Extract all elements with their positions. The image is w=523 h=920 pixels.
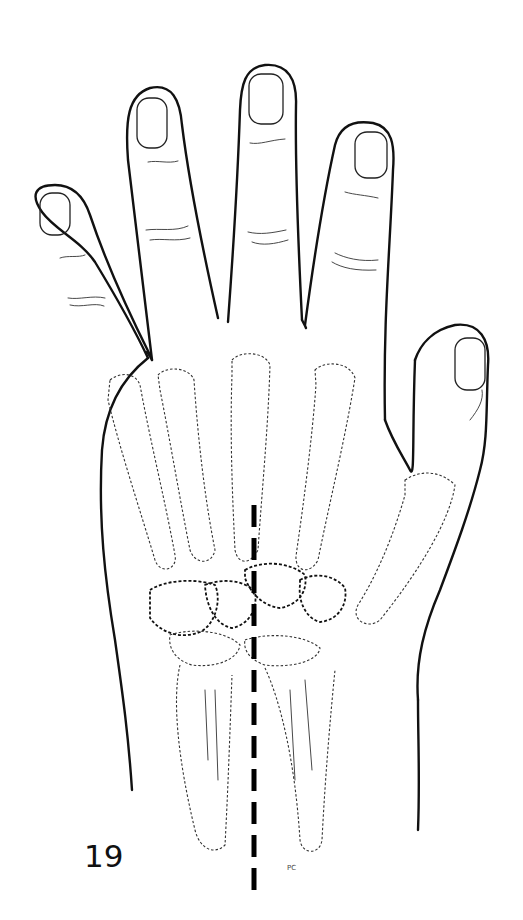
carpal-bones [150, 564, 346, 666]
artist-signature: PC [287, 864, 296, 872]
hand-outline [36, 65, 489, 830]
figure-number: 19 [84, 838, 123, 874]
fingernails [40, 74, 485, 390]
metacarpal-bones [108, 354, 455, 624]
hand-illustration [0, 0, 523, 920]
